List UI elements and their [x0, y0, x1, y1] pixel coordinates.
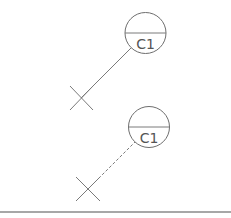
callout-symbol-solid: C1 — [70, 13, 166, 111]
callout-symbol-dashed: C1 — [76, 107, 170, 202]
x-marker-icon — [76, 177, 100, 201]
tag-label: C1 — [136, 36, 155, 52]
x-marker-icon — [70, 86, 93, 110]
diagram-canvas: C1 C1 — [0, 0, 231, 218]
callout-tag-bubble[interactable]: C1 — [129, 107, 170, 148]
callout-tag-bubble[interactable]: C1 — [125, 13, 166, 54]
tag-label: C1 — [140, 130, 159, 146]
